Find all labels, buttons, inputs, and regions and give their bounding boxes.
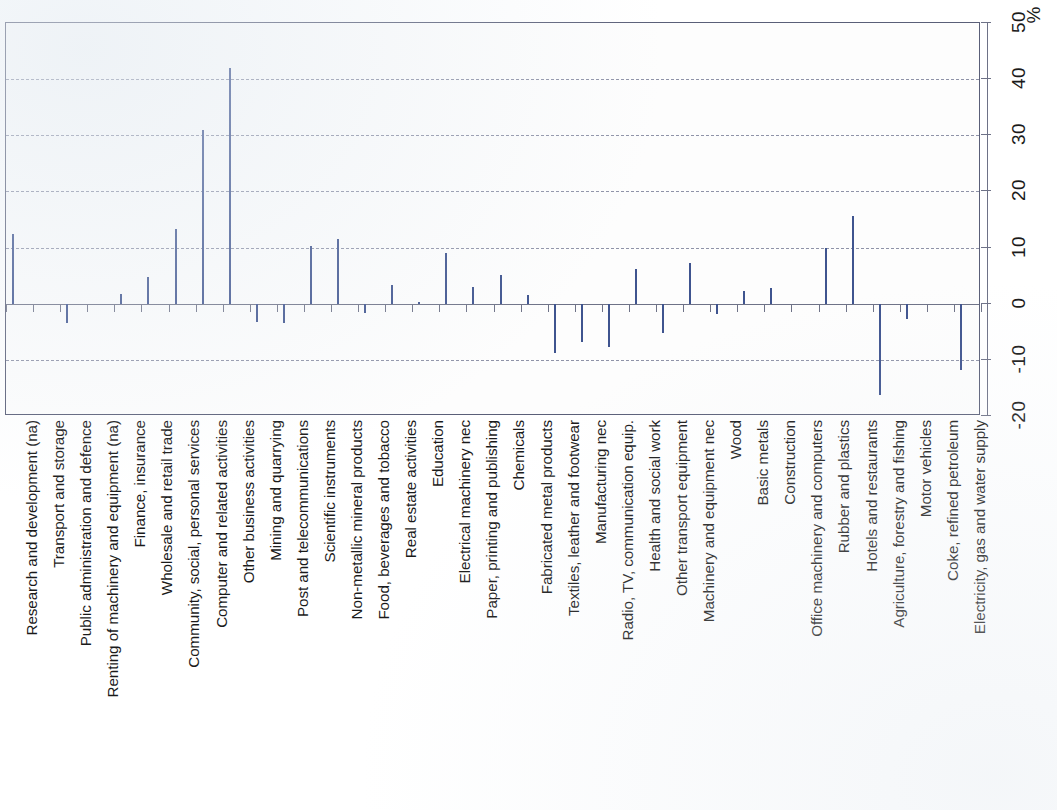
y-axis-tick [981,78,991,79]
axis-tick [331,304,332,312]
axis-tick [791,304,792,312]
category-label: Real estate activities [403,420,418,558]
y-axis-tick [981,190,991,191]
axis-tick [412,304,413,312]
gridline [6,360,979,361]
category-label: Electricity, gas and water supply [972,420,987,634]
axis-tick [6,304,7,312]
axis-tick [819,304,820,312]
category-label: Scientific instruments [322,420,337,562]
category-label: Public administration and defence [78,420,93,646]
bar [310,246,312,304]
y-axis-tick [981,359,991,360]
zero-baseline [6,304,979,305]
category-label: Wood [728,420,743,459]
y-axis-tick [981,22,991,23]
bar [12,234,14,304]
category-label: Radio, TV, communication equip. [620,420,635,641]
axis-tick [250,304,251,312]
category-label: Hotels and restaurants [864,420,879,572]
category-labels: Research and development (na)Transport a… [0,418,1057,810]
axis-tick [494,304,495,312]
bar [175,229,177,304]
axis-tick [683,304,684,312]
bar [635,269,637,303]
y-axis-tick-label: 40 [1008,55,1030,101]
bar [527,295,529,304]
y-axis-tick [981,415,991,416]
y-axis-tick-label: 20 [1008,167,1030,213]
category-label: Finance, insurance [132,420,147,547]
bar [825,248,827,304]
axis-tick [602,304,603,312]
category-label: Computer and related activities [214,420,229,628]
category-label: Manufacturing nec [593,420,608,544]
bar [120,294,122,304]
category-label: Post and telecommunications [295,420,310,617]
category-label: Rubber and plastics [836,420,851,553]
bar [716,304,718,314]
axis-tick [223,304,224,312]
bar [472,287,474,304]
category-label: Coke, refined petroleum [945,420,960,581]
axis-tick [710,304,711,312]
category-label: Wholesale and retail trade [159,420,174,595]
y-axis-line [987,22,988,415]
axis-tick [846,304,847,312]
y-axis-tick [981,247,991,248]
bar [229,68,231,304]
axis-tick [385,304,386,312]
category-label: Paper, printing and publishing [484,420,499,619]
axis-tick [114,304,115,312]
bar [770,288,772,304]
axis-tick [656,304,657,312]
bar [662,304,664,333]
axis-tick [33,304,34,312]
axis-tick [60,304,61,312]
axis-tick [981,304,982,312]
axis-tick [521,304,522,312]
bar [202,130,204,304]
axis-tick [304,304,305,312]
category-label: Chemicals [511,420,526,490]
axis-tick [358,304,359,312]
gridline [6,135,979,136]
bar [906,304,908,319]
category-label: Electrical machinery nec [457,420,472,583]
category-label: Construction [782,420,797,505]
axis-tick [87,304,88,312]
plot-area [5,22,980,415]
axis-tick [764,304,765,312]
bar [256,304,258,322]
axis-tick [954,304,955,312]
y-axis-tick-label: 10 [1008,224,1030,270]
axis-tick [548,304,549,312]
y-axis-tick-label: -10 [1008,336,1030,382]
bar [879,304,881,395]
category-label: Non-metallic mineral products [349,420,364,619]
category-label: Mining and quarrying [268,420,283,561]
gridline [6,191,979,192]
bar [391,285,393,304]
axis-tick [737,304,738,312]
y-axis-tick [981,134,991,135]
category-label: Community, social, personal services [186,420,201,668]
axis-tick [873,304,874,312]
category-label: Textiles, leather and footwear [566,420,581,616]
gridline [6,79,979,80]
bar [500,275,502,304]
category-label: Education [430,420,445,487]
axis-tick [141,304,142,312]
category-label: Motor vehicles [918,420,933,517]
axis-tick [439,304,440,312]
bar [337,239,339,304]
bar [581,304,583,342]
bar [608,304,610,348]
axis-tick [575,304,576,312]
axis-tick [629,304,630,312]
gridline [6,248,979,249]
category-label: Food, beverages and tobacco [376,420,391,620]
bar [364,304,366,313]
category-label: Research and development (na) [24,420,39,636]
category-label: Office machinery and computers [809,420,824,637]
